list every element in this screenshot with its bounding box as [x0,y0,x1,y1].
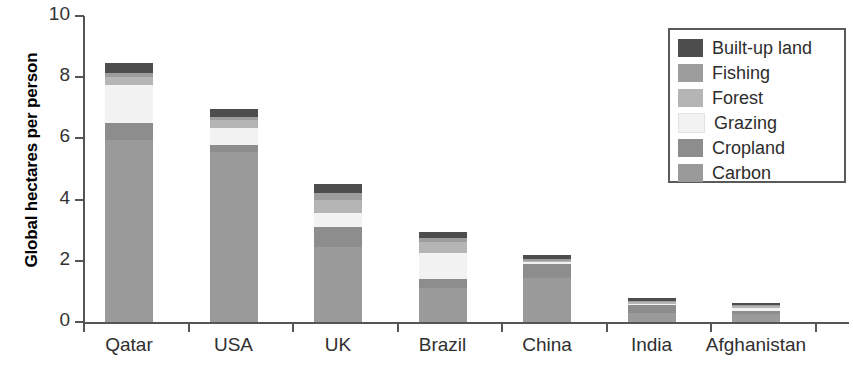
bar-segment-carbon [732,314,780,322]
bar-segment-forest [419,242,467,253]
bar-segment-fishing [523,259,571,261]
bar-segment-carbon [628,313,676,322]
bar-segment-forest [523,261,571,263]
legend-swatch-icon [678,39,703,57]
legend-swatch-icon [678,113,705,133]
bar-segment-carbon [419,288,467,322]
legend-item: Grazing [678,111,844,135]
bar-segment-grazing [314,213,362,227]
bar-segment-built-up-land [419,232,467,238]
bar-segment-built-up-land [105,63,153,72]
legend-swatch-icon [678,139,703,157]
bar-segment-built-up-land [314,184,362,193]
bar-segment-fishing [628,301,676,302]
bar-segment-fishing [314,193,362,199]
bar-segment-carbon [105,140,153,322]
bar-china [523,0,571,322]
bar-segment-grazing [105,85,153,123]
bar-segment-forest [314,200,362,214]
legend-label: Fishing [712,64,770,82]
bar-segment-grazing [732,308,780,311]
bar-segment-grazing [523,262,571,264]
legend-item: Cropland [678,136,844,160]
bar-segment-fishing [419,238,467,243]
bar-brazil [419,0,467,322]
legend-item: Fishing [678,61,844,85]
bar-segment-cropland [210,145,258,153]
bar-segment-cropland [314,227,362,247]
bar-segment-fishing [210,117,258,120]
bar-segment-forest [628,302,676,304]
bar-uk [314,0,362,322]
bar-segment-built-up-land [628,298,676,301]
bar-segment-carbon [314,247,362,322]
bar-segment-grazing [210,128,258,145]
bar-qatar [105,0,153,322]
stacked-bar-chart: Global hectares per person 0246810 Qatar… [0,0,853,379]
bar-segment-cropland [419,279,467,288]
legend-swatch-icon [678,64,703,82]
legend-label: Built-up land [712,39,812,57]
bar-segment-carbon [210,152,258,322]
legend-label: Carbon [712,164,771,182]
bar-segment-cropland [105,123,153,140]
bar-segment-carbon [523,278,571,322]
legend-label: Grazing [714,114,777,132]
bar-segment-built-up-land [210,109,258,117]
bar-segment-cropland [732,311,780,314]
bar-segment-cropland [628,305,676,313]
bar-segment-built-up-land [732,303,780,305]
x-axis-label-afghanistan: Afghanistan [686,334,826,356]
legend-label: Forest [712,89,763,107]
legend: Built-up landFishingForestGrazingCroplan… [668,28,846,183]
legend-swatch-icon [678,164,703,182]
legend-swatch-icon [678,89,703,107]
legend-item: Built-up land [678,36,844,60]
bar-usa [210,0,258,322]
bar-segment-grazing [628,304,676,306]
bar-segment-cropland [523,264,571,278]
legend-label: Cropland [712,139,785,157]
bar-segment-forest [105,77,153,85]
bar-segment-built-up-land [523,255,571,260]
bar-segment-forest [210,120,258,128]
bar-segment-grazing [419,253,467,279]
legend-item: Forest [678,86,844,110]
bar-segment-fishing [105,73,153,78]
legend-item: Carbon [678,161,844,185]
bar-segment-forest [732,305,780,308]
bar-segment-fishing [732,305,780,306]
